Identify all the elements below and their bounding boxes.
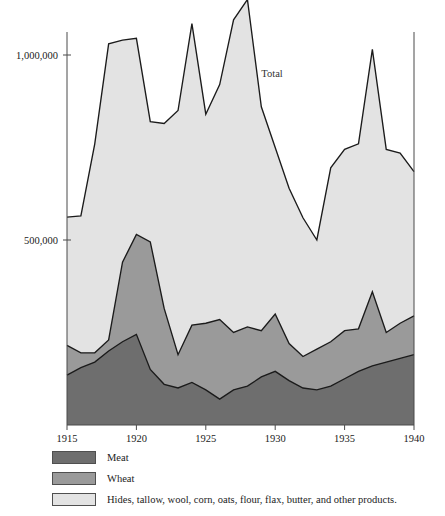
x-axis-tick-label: 1940 bbox=[404, 433, 425, 444]
legend-swatch bbox=[52, 472, 96, 485]
legend-row: Hides, tallow, wool, corn, oats, flour, … bbox=[52, 489, 442, 510]
legend-label: Meat bbox=[107, 452, 129, 463]
legend-swatch bbox=[52, 493, 96, 506]
chart-legend: MeatWheatHides, tallow, wool, corn, oats… bbox=[52, 447, 442, 510]
annotation-total-label: Total bbox=[261, 68, 283, 79]
y-axis-tick-label: 1,000,000 bbox=[16, 50, 58, 61]
legend-row: Meat bbox=[52, 447, 442, 468]
x-axis-tick-label: 1925 bbox=[195, 433, 216, 444]
x-axis-tick-label: 1935 bbox=[334, 433, 355, 444]
legend-swatch bbox=[52, 451, 96, 464]
legend-label: Hides, tallow, wool, corn, oats, flour, … bbox=[107, 494, 397, 505]
x-axis-tick-label: 1920 bbox=[126, 433, 147, 444]
legend-label: Wheat bbox=[107, 473, 134, 484]
chart-annotations: Total bbox=[261, 68, 283, 79]
x-axis-tick-label: 1915 bbox=[57, 433, 78, 444]
y-axis-tick-label: 500,000 bbox=[24, 235, 58, 246]
stacked-area-bands bbox=[67, 0, 414, 425]
x-axis-tick-label: 1930 bbox=[265, 433, 286, 444]
area-chart-canvas: 500,0001,000,000191519201925193019351940… bbox=[0, 0, 445, 516]
chart-figure: 500,0001,000,000191519201925193019351940… bbox=[0, 0, 445, 516]
legend-row: Wheat bbox=[52, 468, 442, 489]
